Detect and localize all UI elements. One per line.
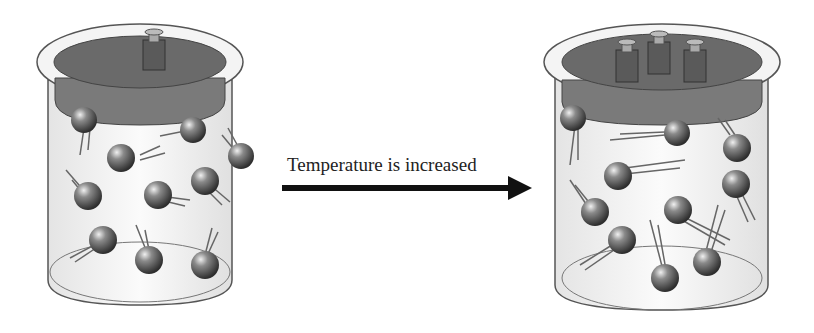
right-beaker: [530, 0, 814, 333]
arrow-right-icon: [282, 176, 532, 200]
diagram-caption: Temperature is increased: [287, 154, 477, 176]
left-beaker: [0, 0, 280, 333]
